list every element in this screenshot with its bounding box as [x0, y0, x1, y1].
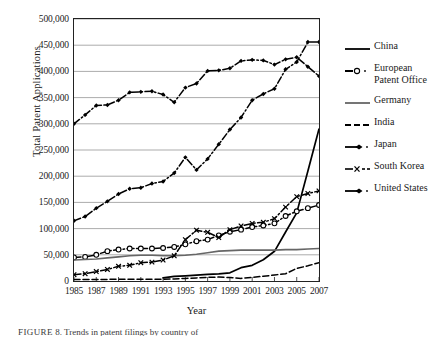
- legend-marker-icon: [345, 161, 371, 173]
- series-japan: [74, 55, 319, 126]
- legend-item-japan[interactable]: Japan: [345, 138, 428, 151]
- legend-marker-icon: [345, 183, 371, 195]
- legend-item-united-states[interactable]: United States: [345, 182, 428, 195]
- chart-figure: Total Patent Applications 050,000100,000…: [0, 0, 428, 337]
- legend-label: South Korea: [374, 160, 424, 172]
- x-axis-tick-label: 1987: [87, 286, 105, 296]
- x-axis-tick-label: 1989: [109, 286, 127, 296]
- legend-item-european-patent-office[interactable]: European Patent Office: [345, 62, 428, 85]
- legend-label: Japan: [374, 138, 397, 150]
- legend-item-china[interactable]: China: [345, 40, 428, 53]
- x-axis-tick-label: 2007: [310, 286, 328, 296]
- legend-item-india[interactable]: India: [345, 116, 428, 129]
- legend-marker-icon: [345, 117, 371, 129]
- chart-legend: ChinaEuropean Patent OfficeGermanyIndiaJ…: [345, 40, 428, 204]
- x-axis-tick-label: 1993: [154, 286, 172, 296]
- legend-marker-icon: [345, 41, 371, 53]
- x-axis-tick-label: 1999: [221, 286, 239, 296]
- series-india: [74, 263, 319, 280]
- legend-label: China: [374, 40, 398, 52]
- x-axis-tick-label: 1985: [65, 286, 83, 296]
- legend-marker-icon: [345, 139, 371, 151]
- series-south-korea: [74, 189, 319, 277]
- x-axis-tick-label: 2005: [288, 286, 306, 296]
- legend-label: India: [374, 116, 395, 128]
- legend-label: European Patent Office: [374, 62, 428, 85]
- caption-prefix: FIGURE: [18, 327, 53, 336]
- x-axis-tick-label: 1997: [199, 286, 217, 296]
- legend-label: United States: [374, 182, 428, 194]
- x-axis-tick-label: 2003: [265, 286, 283, 296]
- x-axis-tick-label: 1995: [176, 286, 194, 296]
- legend-item-germany[interactable]: Germany: [345, 94, 428, 107]
- caption-text: Trends in patent filings by country of: [64, 327, 198, 336]
- x-axis-title: Year: [73, 305, 320, 316]
- legend-marker-icon: [345, 95, 371, 107]
- x-axis-tick-label: 2001: [243, 286, 261, 296]
- legend-item-south-korea[interactable]: South Korea: [345, 160, 428, 173]
- x-axis-tick-label: 1991: [132, 286, 150, 296]
- plot-svg: [74, 19, 319, 281]
- figure-caption: FIGURE 8. Trends in patent filings by co…: [18, 327, 318, 336]
- legend-label: Germany: [374, 94, 411, 106]
- series-united-states: [74, 40, 319, 223]
- plot-area: [73, 18, 320, 282]
- caption-number: 8.: [55, 327, 62, 336]
- legend-marker-icon: [345, 63, 371, 75]
